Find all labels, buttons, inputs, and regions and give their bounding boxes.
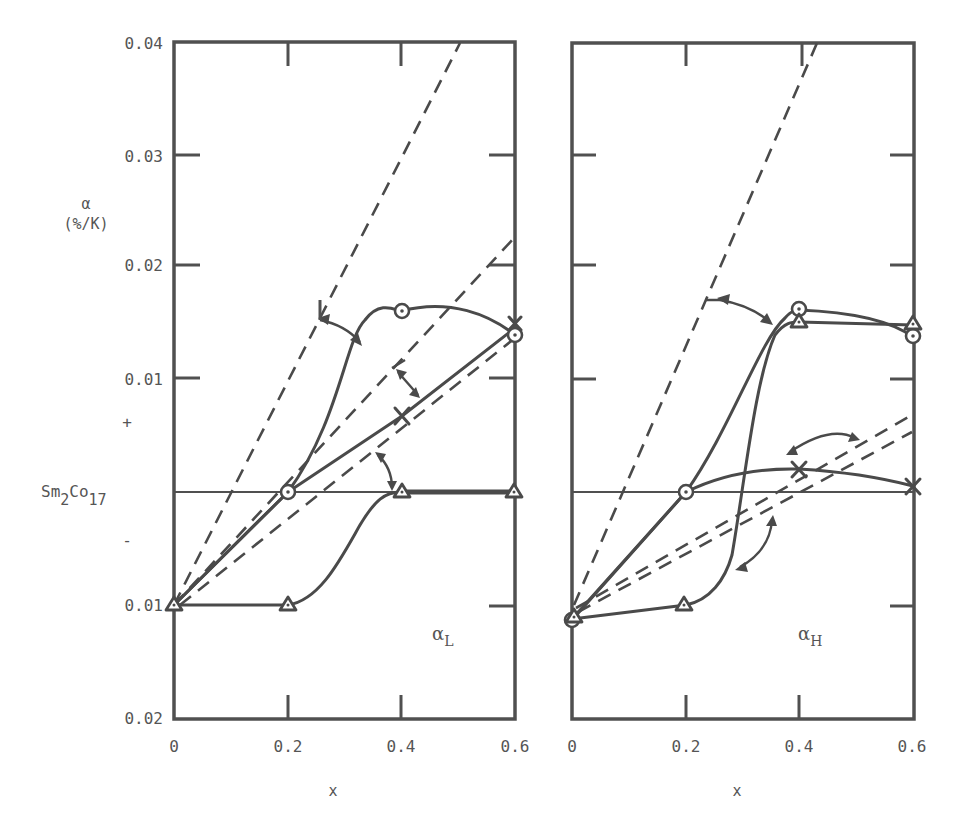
panel-alpha-l: αL: [166, 42, 522, 719]
marker-circle: [906, 329, 920, 343]
x-axis-title: x: [732, 782, 741, 800]
dashed-line-lower-shallow: [578, 432, 912, 612]
y-axis-title-symbol: α: [81, 195, 90, 213]
marker-triangle: [394, 484, 410, 497]
dashed-line-shallow: [180, 338, 515, 605]
panel-alpha-h: αH: [565, 43, 921, 719]
double-arrow: [786, 432, 860, 455]
panel-frame: [572, 43, 914, 719]
figure: 0.04 0.03 0.02 0.01 + - 0.01 0.02 Sm2Co1…: [0, 0, 956, 830]
double-arrow: [392, 360, 420, 398]
x-tick-label: 0.6: [898, 737, 927, 756]
panel-label: αL: [432, 623, 453, 649]
marker-triangle: [506, 484, 522, 497]
x-tick-label: 0.4: [785, 737, 814, 756]
marker-triangle: [676, 597, 692, 610]
y-axis-title-unit: (%/K): [63, 215, 108, 233]
x-tick-label: 0: [169, 737, 179, 756]
marker-circle: [395, 304, 409, 318]
double-arrow: [375, 452, 397, 491]
dashed-line-upper-shallow: [576, 415, 912, 608]
x-axis-labels-left: 0 0.2 0.4 0.6 x: [169, 737, 529, 800]
y-tick-label: 0.01: [124, 596, 163, 615]
y-tick-label: 0.04: [124, 34, 163, 53]
x-tick-label: 0.2: [672, 737, 701, 756]
marker-triangle: [791, 314, 807, 327]
x-axis-labels-right: 0 0.2 0.4 0.6 x: [567, 737, 926, 800]
x-axis-title: x: [328, 782, 337, 800]
marker-circle: [679, 485, 693, 499]
marker-circle: [281, 485, 295, 499]
x-tick-label: 0.2: [274, 737, 303, 756]
marker-cross: [395, 408, 409, 424]
x-tick-label: 0.6: [501, 737, 530, 756]
reference-label: Sm2Co17: [41, 482, 107, 509]
marker-triangle: [905, 316, 921, 329]
y-tick-label: 0.02: [124, 256, 163, 275]
plus-sign: +: [122, 413, 132, 432]
double-arrow: [705, 294, 773, 325]
minus-sign: -: [122, 531, 132, 550]
x-tick-label: 0: [567, 737, 577, 756]
y-tick-label: 0.02: [124, 709, 163, 728]
curve-triangle: [572, 322, 913, 619]
y-tick-label: 0.03: [124, 147, 163, 166]
dashed-line-steep: [174, 43, 460, 605]
y-tick-label: 0.01: [124, 370, 163, 389]
marker-triangle: [280, 597, 296, 610]
x-tick-label: 0.4: [387, 737, 416, 756]
curve-circle: [572, 310, 913, 620]
panel-frame: [174, 42, 515, 719]
panel-label: αH: [798, 623, 822, 649]
y-axis-labels: 0.04 0.03 0.02 0.01 + - 0.01 0.02 Sm2Co1…: [41, 34, 163, 728]
